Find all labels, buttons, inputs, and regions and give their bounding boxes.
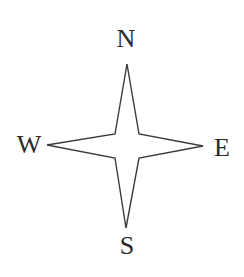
- south-label: S: [120, 233, 134, 259]
- west-label: W: [17, 132, 42, 158]
- north-label: N: [117, 26, 136, 52]
- east-label: E: [214, 135, 230, 161]
- four-point-star: [47, 64, 203, 228]
- compass-rose: N E S W: [0, 0, 244, 277]
